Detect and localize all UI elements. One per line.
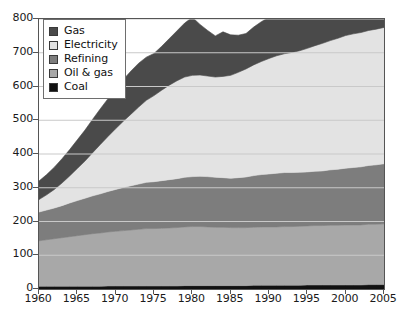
y-axis: 0100200300400500600700800 [0,0,33,323]
x-tick-label-1960: 1960 [18,293,58,305]
y-tick-label-200: 200 [3,215,33,226]
x-tick-label-1990: 1990 [248,293,288,305]
x-tick-mark-1970 [115,290,116,294]
y-tick-label-400: 400 [3,147,33,158]
x-tick-mark-2005 [383,290,384,294]
y-tick-label-700: 700 [3,46,33,57]
x-tick-label-1985: 1985 [210,293,250,305]
y-tick-label-300: 300 [3,181,33,192]
legend-item-label: Oil & gas [64,67,113,79]
x-tick-label-1970: 1970 [95,293,135,305]
y-tick-label-500: 500 [3,113,33,124]
legend-item-label: Electricity [64,39,118,51]
x-tick-label-1980: 1980 [171,293,211,305]
x-tick-mark-1980 [191,290,192,294]
legend-swatch-icon [49,41,58,50]
legend-item-gas[interactable]: Gas [49,24,118,38]
legend-item-refining[interactable]: Refining [49,52,118,66]
x-tick-mark-1965 [76,290,77,294]
y-tick-mark-500 [33,119,38,120]
legend-item-label: Refining [64,53,108,65]
y-tick-label-100: 100 [3,248,33,259]
x-tick-mark-1985 [230,290,231,294]
chart-container: 0100200300400500600700800 GasElectricity… [0,0,405,323]
x-tick-label-2005: 2005 [363,293,403,305]
x-tick-mark-1960 [38,290,39,294]
y-tick-mark-300 [33,187,38,188]
x-tick-mark-1990 [268,290,269,294]
legend-swatch-icon [49,69,58,78]
y-tick-mark-800 [33,18,38,19]
y-tick-mark-200 [33,221,38,222]
y-tick-mark-400 [33,153,38,154]
y-tick-mark-700 [33,52,38,53]
x-tick-label-2000: 2000 [325,293,365,305]
legend: GasElectricityRefiningOil & gasCoal [43,19,126,99]
legend-item-label: Gas [64,25,85,37]
x-tick-mark-2000 [345,290,346,294]
legend-item-label: Coal [64,81,88,93]
x-tick-mark-1995 [306,290,307,294]
x-tick-label-1965: 1965 [56,293,96,305]
legend-swatch-icon [49,27,58,36]
legend-swatch-icon [49,83,58,92]
y-tick-label-600: 600 [3,80,33,91]
legend-item-oil-gas[interactable]: Oil & gas [49,66,118,80]
x-tick-label-1975: 1975 [133,293,173,305]
y-tick-mark-100 [33,254,38,255]
legend-item-electricity[interactable]: Electricity [49,38,118,52]
y-tick-label-800: 800 [3,12,33,23]
legend-item-coal[interactable]: Coal [49,80,118,94]
x-tick-mark-1975 [153,290,154,294]
y-tick-mark-0 [33,288,38,289]
y-tick-mark-600 [33,86,38,87]
legend-swatch-icon [49,55,58,64]
x-tick-label-1995: 1995 [286,293,326,305]
